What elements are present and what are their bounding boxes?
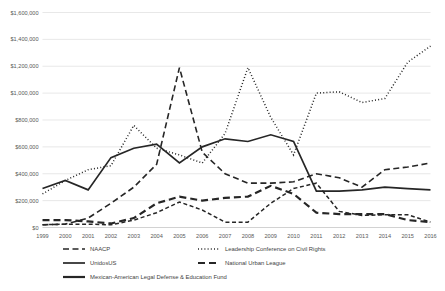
legend-label: NAACP [90,246,110,252]
x-axis-tick-label: 1999 [36,233,48,239]
line-chart: $0$200,000$400,000$600,000$800,000$1,000… [0,0,445,291]
chart-container: $0$200,000$400,000$600,000$800,000$1,000… [0,0,445,291]
x-axis-tick-label: 2000 [59,233,71,239]
y-axis-tick-label: $600,000 [15,144,38,150]
data-series-group [43,46,431,225]
x-axis-tick-label: 2004 [150,233,162,239]
legend-label: Mexican-American Legal Defense & Educati… [90,274,227,280]
gridlines-group [43,13,431,228]
y-axis-tick-label: $1,600,000 [11,10,39,16]
y-axis-tick-label: $800,000 [15,117,38,123]
y-axis-tick-label: $1,400,000 [11,36,39,42]
y-axis-tick-label: $400,000 [15,171,38,177]
x-axis-tick-label: 2005 [173,233,185,239]
chart-legend: NAACPLeadership Conference on Civil Righ… [63,246,326,280]
x-axis-tick-label: 2002 [105,233,117,239]
y-axis-tick-labels: $0$200,000$400,000$600,000$800,000$1,000… [11,10,39,231]
series-line [43,186,431,224]
x-axis-tick-label: 2001 [82,233,94,239]
x-axis-tick-label: 2010 [287,233,299,239]
x-axis-tick-label: 2008 [242,233,254,239]
x-axis-tick-label: 2016 [424,233,436,239]
x-axis-tick-label: 2006 [196,233,208,239]
legend-label: National Urban League [225,260,286,266]
series-line [43,68,431,225]
x-axis-tick-label: 2013 [356,233,368,239]
x-axis-tick-label: 2007 [219,233,231,239]
y-axis-tick-label: $1,000,000 [11,90,39,96]
x-axis-tick-label: 2009 [265,233,277,239]
y-axis-tick-label: $0 [32,225,38,231]
y-axis-tick-label: $200,000 [15,198,38,204]
x-axis-tick-label: 2015 [401,233,413,239]
x-axis-tick-label: 2011 [310,233,322,239]
legend-label: Leadership Conference on Civil Rights [225,246,326,252]
x-axis-tick-label: 2014 [379,233,391,239]
x-axis-tick-label: 2003 [128,233,140,239]
series-line [43,135,431,191]
y-axis-tick-label: $1,200,000 [11,63,39,69]
x-axis-tick-labels: 1999200020012002200320042005200620072008… [36,233,436,239]
x-axis-tick-label: 2012 [333,233,345,239]
legend-label: UnidosUS [90,260,117,266]
